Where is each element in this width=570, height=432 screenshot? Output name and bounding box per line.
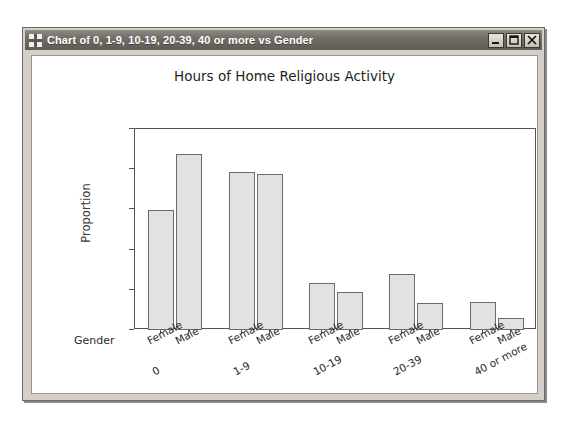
bar: [229, 172, 255, 330]
minimize-button[interactable]: [488, 33, 504, 48]
bar: [176, 154, 202, 330]
x-group-label: 20-39: [391, 353, 424, 378]
chart-canvas: Hours of Home Religious Activity Proport…: [31, 55, 538, 394]
x-group-label: 10-19: [311, 353, 344, 378]
chart-window: Chart of 0, 1-9, 10-19, 20-39, 40 or mor…: [22, 27, 545, 401]
move-crosshair-icon: [29, 34, 42, 47]
plot-area: [134, 128, 536, 329]
close-button[interactable]: [524, 33, 540, 48]
y-axis-title: Proportion: [79, 153, 93, 273]
x-group-label: 0: [150, 364, 162, 378]
window-title-bar[interactable]: Chart of 0, 1-9, 10-19, 20-39, 40 or mor…: [25, 30, 542, 50]
bar: [148, 210, 174, 330]
y-tick-mark: [129, 329, 134, 330]
window-title: Chart of 0, 1-9, 10-19, 20-39, 40 or mor…: [47, 34, 486, 46]
x-group-label: 1-9: [231, 359, 252, 378]
x-axis-title: Gender: [74, 334, 115, 347]
chart-title: Hours of Home Religious Activity: [32, 68, 537, 84]
maximize-button[interactable]: [506, 33, 522, 48]
bar: [257, 174, 283, 330]
